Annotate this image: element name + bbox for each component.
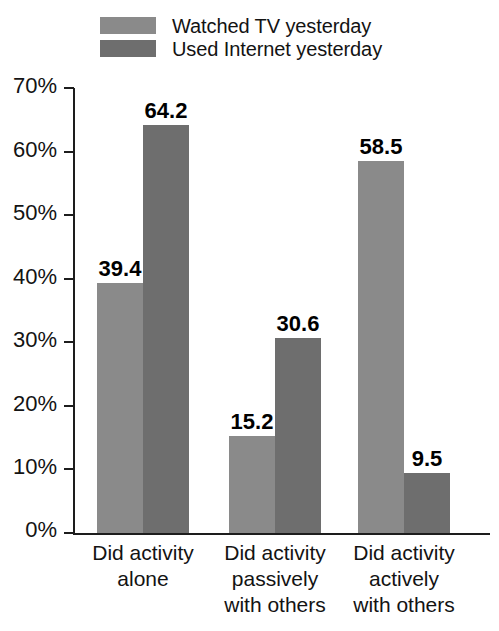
plot-area: 70%60%50%40%30%20%10%0% 39.464.215.230.6… xyxy=(73,88,490,535)
bar-value-label: 9.5 xyxy=(412,448,443,470)
category-label-did-activity-passively-with-others: Did activitypassivelywith others xyxy=(207,540,343,618)
category-label-line: passively xyxy=(207,566,343,592)
category-label-line: alone xyxy=(75,566,211,592)
legend-swatch-watched-tv xyxy=(100,17,156,34)
bar-used-internet-yesterday-did-activity-alone: 64.2 xyxy=(143,125,189,533)
legend-label-watched-tv: Watched TV yesterday xyxy=(172,16,371,36)
y-tick-label: 30% xyxy=(13,328,57,352)
legend-item-watched-tv: Watched TV yesterday xyxy=(100,14,460,37)
bar-value-label: 15.2 xyxy=(231,411,274,433)
category-label-line: with others xyxy=(336,592,472,618)
bar-watched-tv-yesterday-did-activity-alone: 39.4 xyxy=(97,283,143,533)
y-tick-label: 10% xyxy=(13,455,57,479)
chart-legend: Watched TV yesterday Used Internet yeste… xyxy=(100,14,460,60)
y-tick-label: 20% xyxy=(13,392,57,416)
category-label-line: Did activity xyxy=(336,540,472,566)
category-label-line: actively xyxy=(336,566,472,592)
legend-item-used-internet: Used Internet yesterday xyxy=(100,37,460,60)
category-label-did-activity-alone: Did activityalone xyxy=(75,540,211,592)
bar-used-internet-yesterday-did-activity-passively-with-others: 30.6 xyxy=(275,338,321,533)
bar-series-group: 39.464.215.230.658.59.5 xyxy=(73,88,490,535)
category-label-did-activity-actively-with-others: Did activityactivelywith others xyxy=(336,540,472,618)
bar-value-label: 58.5 xyxy=(360,136,403,158)
legend-swatch-used-internet xyxy=(100,40,156,57)
bar-value-label: 64.2 xyxy=(145,100,188,122)
y-tick-label: 0% xyxy=(25,518,57,542)
bar-value-label: 30.6 xyxy=(277,313,320,335)
y-tick-label: 70% xyxy=(13,74,57,98)
category-label-line: Did activity xyxy=(207,540,343,566)
bar-watched-tv-yesterday-did-activity-passively-with-others: 15.2 xyxy=(229,436,275,533)
y-tick-label: 40% xyxy=(13,265,57,289)
category-label-line: Did activity xyxy=(75,540,211,566)
x-axis-category-labels: Did activityaloneDid activitypassivelywi… xyxy=(73,540,490,630)
bar-used-internet-yesterday-did-activity-actively-with-others: 9.5 xyxy=(404,473,450,533)
category-label-line: with others xyxy=(207,592,343,618)
y-tick-label: 60% xyxy=(13,138,57,162)
y-tick-label: 50% xyxy=(13,201,57,225)
legend-label-used-internet: Used Internet yesterday xyxy=(172,39,382,59)
bar-chart: Watched TV yesterday Used Internet yeste… xyxy=(0,0,499,631)
bar-value-label: 39.4 xyxy=(99,258,142,280)
bar-watched-tv-yesterday-did-activity-actively-with-others: 58.5 xyxy=(358,161,404,533)
